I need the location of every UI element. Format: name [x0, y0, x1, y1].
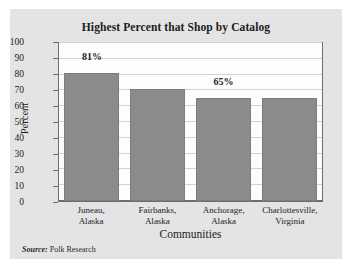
- bar-slot: [125, 43, 191, 201]
- y-tick-label: 10: [0, 181, 24, 191]
- source-text: Polk Research: [50, 245, 96, 254]
- y-tick-label: 90: [0, 53, 24, 63]
- y-tick-label: 0: [0, 197, 24, 207]
- y-tick-label: 80: [0, 69, 24, 79]
- bar-slot: [256, 43, 322, 201]
- x-category-line1: Charlottesville,: [245, 205, 335, 216]
- plot-area: 81%65%: [58, 42, 323, 202]
- y-tick-label: 40: [0, 133, 24, 143]
- plot-inner: 81%65%: [59, 43, 322, 201]
- y-tick-mark: [53, 202, 58, 203]
- bar-value-label: 81%: [59, 51, 125, 62]
- x-axis-title: Communities: [58, 228, 323, 240]
- y-tick-label: 30: [0, 149, 24, 159]
- x-category-line2: Virginia: [245, 216, 335, 227]
- chart-card: Highest Percent that Shop by Catalog Per…: [10, 9, 342, 259]
- bar[interactable]: [196, 98, 251, 201]
- bar-slot: 81%: [59, 43, 125, 201]
- bar-slot: 65%: [191, 43, 257, 201]
- y-tick-label: 50: [0, 117, 24, 127]
- bar-value-label: 65%: [191, 76, 257, 87]
- bar[interactable]: [64, 73, 119, 201]
- source-note: Source: Polk Research: [22, 245, 96, 254]
- y-tick-label: 100: [0, 37, 24, 47]
- source-label: Source:: [22, 245, 48, 254]
- y-tick-label: 60: [0, 101, 24, 111]
- y-tick-label: 20: [0, 165, 24, 175]
- y-tick-label: 70: [0, 85, 24, 95]
- x-category-label: Charlottesville,Virginia: [245, 205, 335, 226]
- bar[interactable]: [262, 98, 317, 201]
- bar[interactable]: [130, 89, 185, 201]
- chart-title: Highest Percent that Shop by Catalog: [10, 21, 342, 33]
